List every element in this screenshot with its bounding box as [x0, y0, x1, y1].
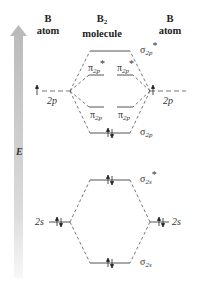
2p-correlation-lines — [70, 51, 150, 133]
left-2s-label: 2s — [35, 216, 44, 227]
right-2p-label: 2p — [163, 95, 173, 106]
sigma2s-star-label: σ2s* — [140, 169, 157, 186]
pi2p-label-2: π2p — [118, 109, 131, 122]
energy-label: E — [15, 146, 23, 157]
right-2s-label: 2s — [172, 216, 181, 227]
left-2p-electron-icon — [36, 85, 39, 95]
pi2p-label-1: π2p — [90, 109, 103, 122]
sigma2s-label: σ2s — [140, 256, 152, 269]
2s-correlation-lines — [70, 180, 150, 263]
left-2p-label: 2p — [47, 95, 57, 106]
sigma2p-label: σ2p — [140, 126, 153, 139]
right-2p-electron-icon — [152, 85, 155, 95]
pi2p-star-label-1: π2p* — [88, 58, 105, 75]
pi2p-star-label-2: π2p* — [117, 58, 134, 75]
mo-diagram: E σ2p* π2p* π2p* π2p π2p σ2p 2p 2p — [0, 0, 201, 283]
sigma2p-star-label: σ2p* — [140, 40, 157, 57]
